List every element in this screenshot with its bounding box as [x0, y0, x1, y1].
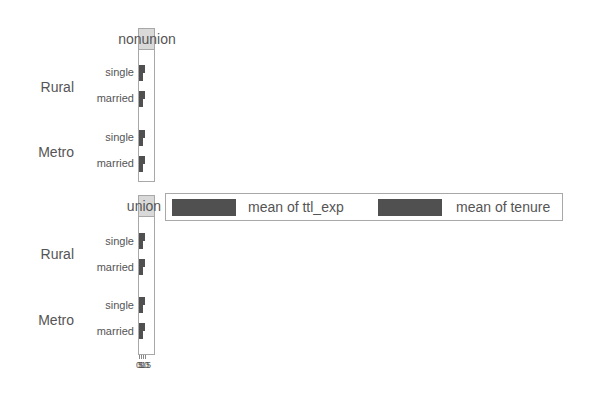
x-tick: [145, 355, 146, 359]
legend-label-ttl-exp: mean of ttl_exp: [248, 199, 344, 215]
bar-tenure: [139, 99, 143, 107]
x-tick: [143, 355, 144, 359]
bar-tenure: [139, 73, 143, 81]
bar-ttl-exp: [139, 130, 145, 138]
bar-tenure: [139, 267, 143, 275]
bar-ttl-exp: [139, 156, 145, 164]
group-label-rural: Rural: [14, 246, 74, 262]
x-tick: [139, 355, 140, 359]
group-label-rural: Rural: [14, 79, 74, 95]
bar-ttl-exp: [139, 91, 145, 99]
group-label-metro: Metro: [14, 312, 74, 328]
legend-swatch-ttl-exp: [172, 199, 236, 216]
strip-label-union: union: [127, 198, 161, 214]
group-label-metro: Metro: [14, 144, 74, 160]
cat-label-single: single: [74, 235, 134, 247]
cat-label-single: single: [74, 66, 134, 78]
bar-ttl-exp: [139, 323, 145, 331]
bar-ttl-exp: [139, 65, 145, 73]
cat-label-married: married: [74, 157, 134, 169]
cat-label-married: married: [74, 261, 134, 273]
x-tick-label: 15: [141, 360, 151, 370]
cat-label-single: single: [74, 131, 134, 143]
x-tick: [141, 355, 142, 359]
bar-ttl-exp: [139, 233, 145, 241]
legend-label-tenure: mean of tenure: [456, 199, 550, 215]
bar-tenure: [139, 164, 143, 172]
bar-tenure: [139, 331, 143, 339]
cat-label-married: married: [74, 325, 134, 337]
bar-tenure: [139, 241, 143, 249]
cat-label-married: married: [74, 92, 134, 104]
strip-label-nonunion: nonunion: [118, 31, 176, 47]
legend-swatch-tenure: [378, 199, 442, 216]
bar-ttl-exp: [139, 259, 145, 267]
bar-tenure: [139, 138, 143, 146]
bar-tenure: [139, 305, 143, 313]
cat-label-single: single: [74, 299, 134, 311]
bar-ttl-exp: [139, 297, 145, 305]
legend: mean of ttl_exp mean of tenure: [165, 193, 563, 221]
